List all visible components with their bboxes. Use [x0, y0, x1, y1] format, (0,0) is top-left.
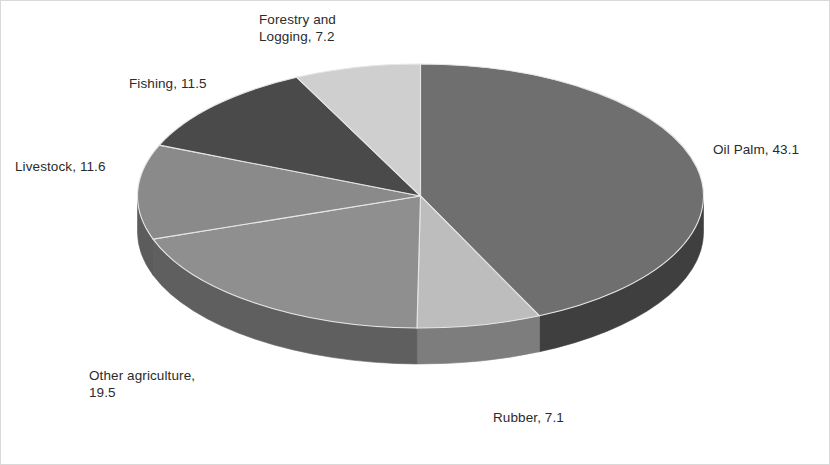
pie-label-fishing: Fishing, 11.5: [129, 75, 207, 92]
pie-label-oil-palm: Oil Palm, 43.1: [713, 141, 799, 158]
pie-label-forestry-and-logging: Forestry and Logging, 7.2: [259, 11, 336, 45]
pie-label-rubber: Rubber, 7.1: [493, 409, 564, 426]
chart-frame: Oil Palm, 43.1 Rubber, 7.1 Other agricul…: [0, 0, 830, 465]
pie-label-livestock: Livestock, 11.6: [15, 158, 106, 175]
pie-chart-plot-area: Oil Palm, 43.1 Rubber, 7.1 Other agricul…: [1, 1, 830, 465]
pie-label-other-agriculture: Other agriculture, 19.5: [89, 367, 195, 401]
pie-top-slices: [138, 64, 704, 328]
